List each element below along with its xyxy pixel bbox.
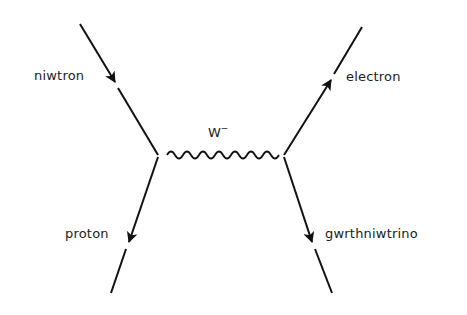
neutron-label: niwtron — [34, 68, 84, 83]
electron-line — [284, 27, 362, 155]
antineutrino-line — [284, 157, 332, 293]
w-boson-label: W− — [208, 124, 228, 140]
proton-label: proton — [65, 226, 109, 241]
proton-line — [111, 157, 158, 293]
w-boson-symbol: W — [208, 125, 221, 140]
electron-label: electron — [346, 69, 401, 84]
w-boson-propagator — [167, 152, 279, 159]
neutron-line — [80, 24, 158, 155]
feynman-diagram — [0, 0, 467, 315]
antineutrino-label: gwrthniwtrino — [325, 226, 418, 241]
w-boson-charge: − — [221, 123, 229, 133]
